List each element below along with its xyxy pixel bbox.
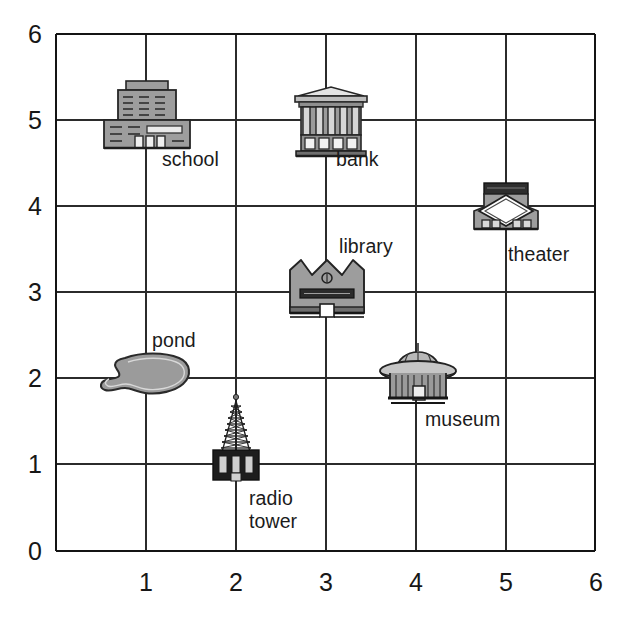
school-label: school <box>162 148 219 170</box>
y-tick-1: 1 <box>12 452 42 477</box>
y-tick-4: 4 <box>12 194 42 219</box>
y-tick-5: 5 <box>12 108 42 133</box>
x-tick-1: 1 <box>131 570 161 595</box>
y-tick-6: 6 <box>12 22 42 47</box>
bank-label: bank <box>336 148 379 170</box>
x-tick-2: 2 <box>221 570 251 595</box>
y-tick-3: 3 <box>12 280 42 305</box>
library-label: library <box>339 235 393 257</box>
coordinate-grid-map: 6 5 4 3 2 1 0 1 2 3 4 5 6 <box>0 0 629 621</box>
y-tick-2: 2 <box>12 366 42 391</box>
y-tick-0: 0 <box>12 539 42 564</box>
x-tick-4: 4 <box>401 570 431 595</box>
pond-label: pond <box>152 329 196 351</box>
x-tick-6: 6 <box>581 570 611 595</box>
radio-tower-label-line1: radio <box>249 487 293 509</box>
grid-lines <box>0 0 629 621</box>
museum-label: museum <box>425 408 500 430</box>
theater-label: theater <box>508 243 569 265</box>
x-tick-3: 3 <box>311 570 341 595</box>
radio-tower-label-line2: tower <box>249 510 297 532</box>
x-tick-5: 5 <box>491 570 521 595</box>
